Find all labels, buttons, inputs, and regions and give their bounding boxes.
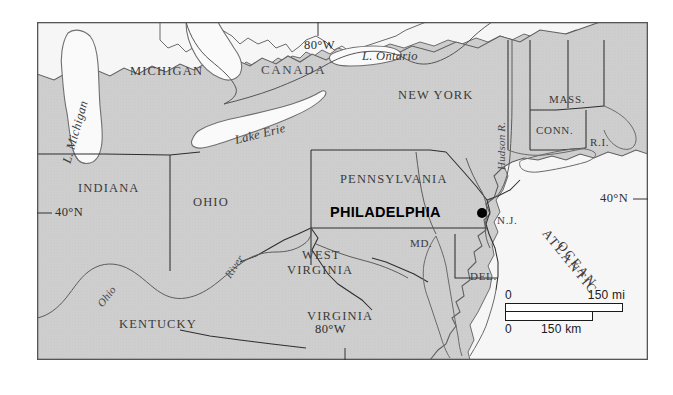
scale-bar-miles [505, 303, 623, 312]
scale-bar: 0 150 mi 0 150 km [505, 288, 625, 338]
philadelphia-city-marker [477, 208, 487, 218]
scale-bar-km [505, 312, 593, 321]
scale-km-max: 150 km [541, 322, 582, 336]
scale-miles-zero: 0 [505, 288, 512, 302]
scale-km-zero: 0 [505, 322, 512, 336]
scale-miles-max: 150 mi [588, 288, 625, 302]
location-map-figure: CANADA MICHIGAN INDIANA OHIO KENTUCKY PE… [0, 0, 673, 395]
canada-region [37, 20, 648, 22]
